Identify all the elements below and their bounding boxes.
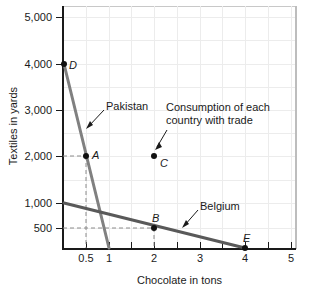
consumption-note-leader-arrowhead	[155, 142, 162, 150]
data-point-label-A: A	[92, 150, 99, 161]
data-point-C	[151, 153, 157, 159]
economics-ppf-chart: 5,000 4,000 3,000 2,000 1,000 500 0.5 1 …	[0, 0, 310, 294]
data-point-label-B: B	[152, 213, 159, 224]
data-point-label-E: E	[243, 233, 250, 244]
consumption-note-line-1: Consumption of each	[166, 101, 270, 114]
chart-vector-layer	[0, 0, 310, 294]
pakistan-series-label: Pakistan	[106, 100, 148, 113]
data-point-D	[61, 61, 67, 67]
belgium-series-label: Belgium	[200, 200, 240, 213]
data-point-A	[83, 153, 89, 159]
consumption-note-line-2: country with trade	[166, 114, 253, 127]
data-point-label-D: D	[69, 60, 77, 71]
data-point-E	[242, 245, 248, 251]
data-point-B	[151, 225, 157, 231]
data-point-label-C: C	[160, 158, 168, 169]
